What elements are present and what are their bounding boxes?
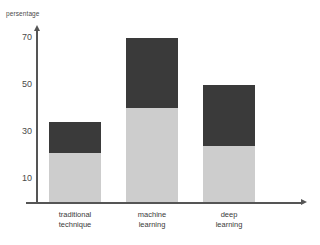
y-tick-label-30: 30 bbox=[10, 126, 32, 136]
y-axis-line bbox=[36, 30, 38, 204]
y-tick-label-10: 10 bbox=[10, 173, 32, 183]
x-axis-line bbox=[26, 202, 302, 204]
bar-0-lower-segment bbox=[49, 153, 101, 202]
bar-chart: persentage 70 50 30 10 traditional techn… bbox=[0, 0, 320, 245]
x-category-label-2-line-2: learning bbox=[199, 220, 259, 230]
bar-1-upper-segment bbox=[126, 38, 178, 109]
y-tick-label-70: 70 bbox=[10, 32, 32, 42]
y-axis-title: persentage bbox=[6, 10, 40, 17]
x-category-label-2: deep learning bbox=[199, 210, 259, 230]
bar-2-upper-segment bbox=[203, 85, 255, 146]
x-category-label-0-line-2: technique bbox=[45, 220, 105, 230]
x-category-label-2-line-1: deep bbox=[199, 210, 259, 220]
x-category-label-0-line-1: traditional bbox=[45, 210, 105, 220]
bar-2-lower-segment bbox=[203, 146, 255, 202]
x-category-label-1-line-1: machine bbox=[122, 210, 182, 220]
y-tick-label-50: 50 bbox=[10, 79, 32, 89]
x-axis-arrow-icon bbox=[301, 199, 307, 205]
x-category-label-1: machine learning bbox=[122, 210, 182, 230]
x-category-label-0: traditional technique bbox=[45, 210, 105, 230]
x-category-label-1-line-2: learning bbox=[122, 220, 182, 230]
bar-0-upper-segment bbox=[49, 122, 101, 153]
bar-1-lower-segment bbox=[126, 108, 178, 202]
